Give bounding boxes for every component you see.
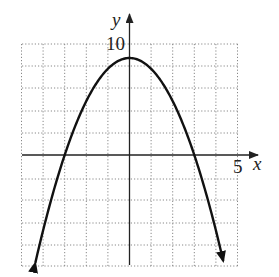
y-tick-label: 10 xyxy=(106,33,125,54)
axes xyxy=(22,14,258,265)
x-tick-label: 5 xyxy=(233,156,243,177)
x-axis-label: x xyxy=(252,153,262,174)
y-axis-label: y xyxy=(110,9,121,30)
graph: y 10 5 x xyxy=(0,0,279,277)
